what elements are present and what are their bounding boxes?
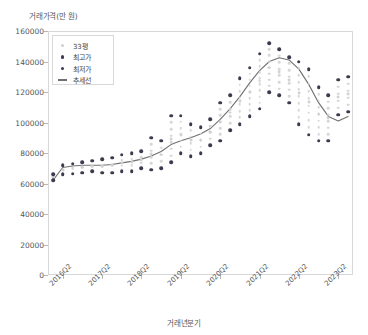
data-point-max-price	[100, 157, 104, 161]
legend-item[interactable]: 최저가	[57, 63, 90, 74]
data-point-max-price	[228, 93, 232, 97]
data-point-33py	[239, 116, 242, 119]
y-axis-tick-label: 120000	[15, 88, 44, 97]
data-point-33py	[150, 152, 153, 155]
data-point-33py	[298, 116, 301, 119]
legend-item[interactable]: 추세선	[57, 75, 90, 86]
data-point-33py	[91, 165, 94, 168]
data-point-33py	[278, 74, 281, 77]
data-point-33py	[170, 141, 173, 144]
data-point-min-price	[307, 133, 311, 137]
data-point-33py	[150, 143, 153, 146]
data-point-33py	[258, 89, 261, 92]
data-point-33py	[307, 104, 310, 107]
data-point-33py	[258, 59, 261, 62]
legend-dot-icon	[57, 44, 68, 47]
data-point-min-price	[228, 128, 232, 132]
data-point-33py	[179, 133, 182, 136]
data-point-33py	[160, 153, 163, 156]
data-point-33py	[288, 62, 291, 65]
data-point-max-price	[287, 55, 291, 59]
data-point-min-price	[130, 170, 134, 174]
y-axis-tick-label: 100000	[15, 118, 44, 127]
data-point-min-price	[81, 171, 85, 175]
data-point-max-price	[150, 136, 154, 140]
data-point-33py	[209, 131, 212, 134]
y-axis-tick-mark	[44, 184, 48, 185]
data-point-33py	[258, 95, 261, 98]
legend-line-icon	[57, 79, 68, 80]
data-point-33py	[278, 81, 281, 84]
legend: 33평최고가최저가추세선	[52, 35, 114, 85]
data-point-33py	[258, 101, 261, 104]
legend-item-label: 최고가	[73, 52, 90, 62]
data-point-max-price	[317, 86, 321, 90]
y-axis-tick-label: 80000	[20, 149, 44, 158]
data-point-33py	[219, 133, 222, 136]
data-point-33py	[258, 71, 261, 74]
legend-item[interactable]: 33평	[57, 40, 87, 51]
data-point-33py	[327, 120, 330, 123]
data-point-33py	[298, 109, 301, 112]
scatter-chart: 거래가격(만 원) 020000400006000080000100000120…	[0, 0, 368, 335]
data-point-33py	[298, 88, 301, 91]
data-point-33py	[258, 83, 261, 86]
data-point-min-price	[327, 139, 331, 143]
legend-item-label: 최저가	[73, 64, 90, 74]
data-point-33py	[140, 161, 143, 164]
y-axis-tick-mark	[44, 245, 48, 246]
y-axis-tick-mark	[44, 123, 48, 124]
data-point-33py	[170, 134, 173, 137]
data-point-33py	[298, 81, 301, 84]
data-point-33py	[298, 95, 301, 98]
data-point-33py	[347, 104, 350, 107]
data-point-33py	[229, 111, 232, 114]
data-point-33py	[180, 139, 183, 142]
data-point-33py	[160, 160, 163, 163]
data-point-max-price	[327, 93, 331, 97]
data-point-33py	[209, 125, 212, 128]
data-point-33py	[219, 108, 222, 111]
data-point-33py	[327, 100, 330, 103]
data-point-max-price	[61, 163, 65, 167]
data-point-33py	[317, 93, 320, 96]
data-point-33py	[327, 133, 330, 136]
data-point-33py	[219, 114, 222, 117]
data-point-33py	[239, 84, 242, 87]
y-axis-tick-mark	[44, 214, 48, 215]
data-point-33py	[307, 100, 310, 103]
data-point-33py	[288, 82, 291, 85]
data-point-33py	[298, 102, 301, 105]
data-point-33py	[170, 148, 173, 151]
data-point-33py	[278, 55, 281, 58]
data-point-max-price	[120, 153, 124, 157]
data-point-33py	[307, 119, 310, 122]
data-point-min-price	[71, 172, 75, 176]
data-point-33py	[101, 165, 104, 168]
data-point-33py	[327, 107, 330, 110]
data-point-33py	[239, 110, 242, 113]
data-point-33py	[268, 79, 271, 82]
data-point-33py	[150, 156, 153, 159]
y-axis-tick-label: 40000	[20, 210, 44, 219]
data-point-33py	[307, 75, 310, 78]
data-point-33py	[150, 162, 153, 165]
data-point-33py	[238, 100, 241, 103]
data-point-33py	[298, 67, 301, 70]
data-point-33py	[120, 164, 123, 167]
data-point-min-price	[317, 139, 321, 143]
data-point-33py	[180, 121, 183, 124]
data-point-min-price	[90, 170, 94, 174]
data-point-33py	[180, 145, 183, 148]
data-point-33py	[268, 60, 271, 63]
legend-item[interactable]: 최고가	[57, 52, 90, 63]
data-point-max-price	[110, 156, 114, 160]
data-point-min-price	[120, 170, 124, 174]
data-point-33py	[317, 99, 320, 102]
data-point-33py	[347, 89, 350, 92]
data-point-33py	[248, 85, 251, 88]
data-point-33py	[180, 127, 183, 130]
data-point-max-price	[71, 162, 75, 166]
y-axis-tick-label: 140000	[15, 57, 44, 66]
data-point-33py	[317, 126, 320, 129]
